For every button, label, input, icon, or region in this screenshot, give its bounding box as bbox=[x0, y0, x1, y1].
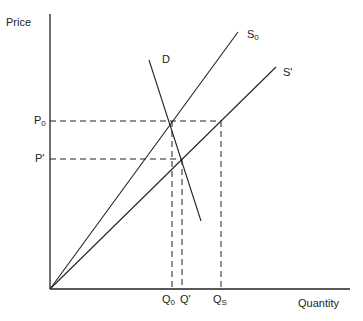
supply-curve-s0 bbox=[50, 32, 238, 289]
supply-demand-diagram: Price Quantity S0 S' D P0 P' Q0 Q' QS bbox=[0, 0, 363, 321]
q-prime-label: Q' bbox=[180, 293, 191, 305]
s0-label: S0 bbox=[247, 28, 259, 42]
p-prime-label: P' bbox=[35, 152, 44, 164]
diagram-canvas bbox=[0, 0, 363, 321]
d-label: D bbox=[162, 53, 170, 65]
demand-curve bbox=[149, 60, 201, 221]
supply-curve-s-prime bbox=[50, 67, 276, 289]
p0-label: P0 bbox=[34, 114, 46, 128]
s-prime-label: S' bbox=[283, 66, 292, 78]
y-axis-label: Price bbox=[6, 16, 31, 28]
qs-label: QS bbox=[213, 293, 227, 307]
x-axis-label: Quantity bbox=[298, 297, 339, 309]
q0-label: Q0 bbox=[162, 293, 175, 307]
